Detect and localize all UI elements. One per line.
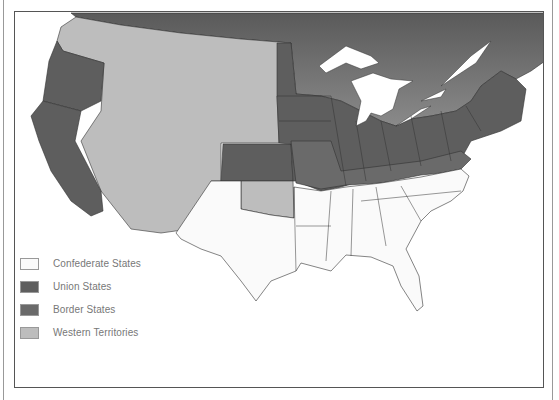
union-swatch: [20, 281, 39, 293]
legend-item-western: Western Territories: [20, 321, 141, 344]
legend-item-union: Union States: [20, 275, 141, 298]
border-swatch: [20, 304, 39, 316]
legend-item-border: Border States: [20, 298, 141, 321]
western-swatch: [20, 327, 39, 339]
legend-item-confederate: Confederate States: [20, 252, 141, 275]
legend-label: Western Territories: [53, 327, 138, 338]
map-legend: Confederate States Union States Border S…: [20, 252, 141, 344]
kansas: [221, 144, 293, 181]
legend-label: Union States: [53, 281, 111, 292]
legend-label: Confederate States: [53, 258, 141, 269]
legend-label: Border States: [53, 304, 115, 315]
confederate-swatch: [20, 258, 39, 270]
